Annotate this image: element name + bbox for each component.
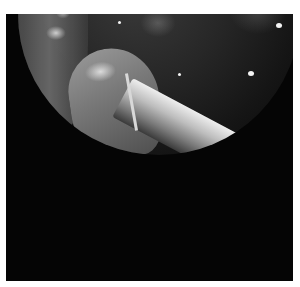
specular-highlight — [248, 71, 254, 76]
specular-highlight — [178, 73, 181, 76]
specular-highlight — [118, 21, 121, 24]
circular-view: 1 — [18, 14, 293, 155]
specular-highlight — [276, 23, 282, 28]
image-frame: 1 — [6, 14, 293, 281]
endoscope-field: 1 — [6, 14, 293, 281]
